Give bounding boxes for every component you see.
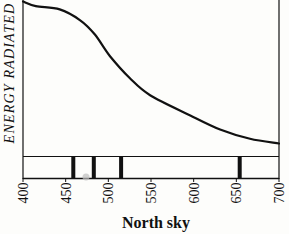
spectral-line xyxy=(238,157,242,178)
x-tick-label: 450 xyxy=(59,183,74,204)
x-tick-label: 700 xyxy=(272,183,287,204)
spectral-line xyxy=(71,157,75,178)
x-tick-label: 500 xyxy=(101,183,116,204)
energy-curve xyxy=(23,2,279,144)
spectral-line xyxy=(119,157,123,178)
spectral-line xyxy=(92,157,96,178)
x-axis-ticks: 400450500550600650700 xyxy=(16,178,287,204)
x-tick-label: 600 xyxy=(187,183,202,204)
spectral-line-strip xyxy=(23,157,279,179)
y-axis-label: ENERGY RADIATED xyxy=(2,3,17,145)
x-tick-label: 550 xyxy=(144,183,159,204)
scan-smudge xyxy=(83,174,90,181)
x-tick-label: 400 xyxy=(16,183,31,204)
spectrum-chart: ENERGY RADIATED 400450500550600650700 No… xyxy=(0,0,289,234)
x-tick-label: 650 xyxy=(229,183,244,204)
x-axis-label: North sky xyxy=(122,214,190,232)
